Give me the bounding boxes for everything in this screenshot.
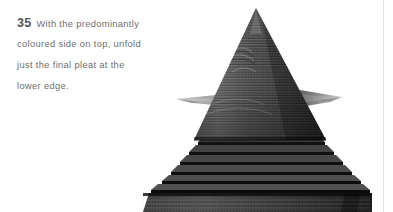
book-page: 35With the predominantly coloured side o… — [0, 0, 393, 212]
cone-body — [190, 6, 330, 142]
pleated-paper-model-photo — [0, 0, 393, 212]
base-steps — [143, 135, 372, 212]
